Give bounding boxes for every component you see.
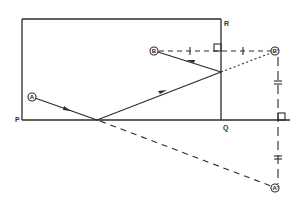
tick-marks — [190, 47, 282, 159]
point-A-image-label: A' — [273, 185, 279, 191]
corner-label-R: R — [224, 20, 229, 27]
wall-to-B-image-line — [221, 53, 271, 72]
point-B-image-label: B' — [273, 48, 279, 54]
rectangle — [22, 19, 290, 120]
floor-to-A-image-line — [100, 121, 271, 186]
right-angle-mark — [214, 44, 221, 51]
arrow-icon — [63, 106, 71, 111]
construction-lines — [100, 51, 278, 186]
point-A-label: A — [30, 94, 35, 100]
arrowheads — [63, 60, 195, 111]
right-angle-mark — [278, 113, 285, 120]
ray-floor-to-wall — [97, 72, 221, 120]
corner-label-P: P — [15, 116, 20, 123]
reflection-diagram: A B B' A' P Q R — [0, 0, 301, 202]
corner-label-Q: Q — [223, 124, 229, 132]
point-B-label: B — [152, 48, 157, 54]
